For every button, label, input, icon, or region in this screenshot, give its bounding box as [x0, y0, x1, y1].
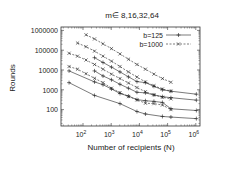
y-axis-label: Rounds	[8, 64, 17, 92]
series-solid-4	[93, 56, 199, 97]
chart-title: m∈ 8,16,32,64	[105, 11, 159, 20]
y-tick-label: 1000	[42, 87, 58, 94]
legend-label: b=125	[143, 32, 163, 39]
series-solid-5	[93, 69, 199, 102]
chart: m∈ 8,16,32,64 1001000100001000001000000 …	[0, 0, 226, 174]
plot-area	[67, 33, 198, 120]
x-tick-label: 102	[76, 129, 87, 138]
x-tick-label: 106	[189, 129, 200, 138]
y-tick-label: 100	[46, 106, 58, 113]
series-solid-7	[67, 81, 198, 121]
x-tick-label: 103	[104, 129, 115, 138]
x-tick-label: 105	[160, 129, 171, 138]
legend: b=125b=1000	[139, 32, 191, 48]
y-tick-label: 100000	[35, 47, 58, 54]
y-tick-label: 1000000	[31, 27, 58, 34]
x-tick-label: 104	[132, 129, 143, 138]
series-solid-6	[67, 69, 198, 113]
legend-label: b=1000	[139, 41, 163, 48]
y-tick-label: 10000	[39, 67, 59, 74]
x-axis-label: Number of recipients (N)	[87, 143, 174, 152]
chart-canvas: m∈ 8,16,32,64 1001000100001000001000000 …	[0, 0, 226, 174]
series-dashed-1	[76, 41, 173, 92]
